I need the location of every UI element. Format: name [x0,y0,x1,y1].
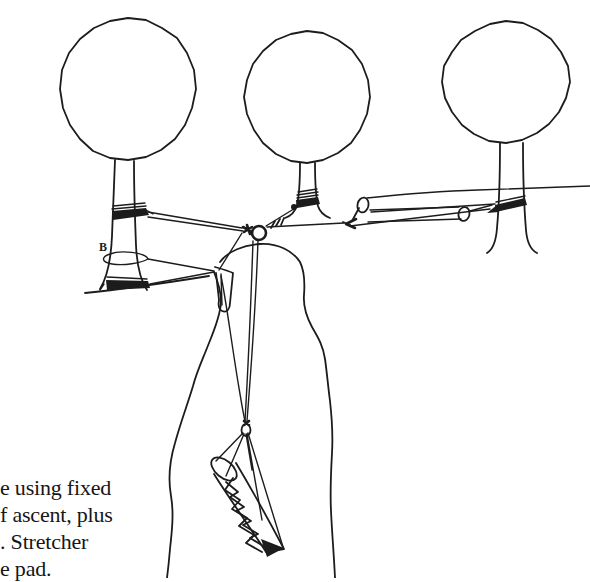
tree-left-canopy [60,18,196,160]
caption-line: f ascent, plus [0,501,150,528]
caption-line: . Stretcher [0,528,150,555]
edge-pad-rope [219,233,245,421]
main-lowering-rope [245,240,258,421]
fixed-line [367,186,590,198]
caption-line: e using fixed [0,474,150,501]
label-b: B [99,240,107,254]
stretcher [207,421,284,557]
tree-middle-sling [291,189,320,210]
tree-left-upper-sling [112,203,153,220]
anchor-rope-upper [148,212,243,231]
tree-middle [244,31,370,218]
tree-middle-canopy [244,31,370,163]
anchor-knot [243,225,252,234]
stretcher-rails [214,463,284,552]
anchor-ring [252,226,266,240]
tree-right-canopy [442,21,570,143]
caption: e using fixed f ascent, plus . Stretcher… [0,474,150,582]
caption-line: e pad. [0,555,150,582]
lower-roller [368,205,492,222]
stretcher-head-guard [207,453,241,485]
anchor-ring-assembly [148,207,297,240]
cliff-left-edge [167,272,221,578]
tree-left-trunk [100,160,147,290]
tree-right [442,21,570,253]
tree-left [60,18,196,290]
lowering-ropes [219,233,258,421]
